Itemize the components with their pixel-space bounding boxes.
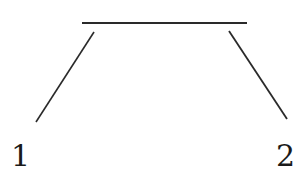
left-leg-line	[36, 32, 94, 122]
label-1: 1	[11, 138, 30, 173]
diagram-canvas: 1 2	[0, 0, 303, 184]
label-2: 2	[276, 138, 295, 173]
right-leg-line	[229, 31, 287, 119]
